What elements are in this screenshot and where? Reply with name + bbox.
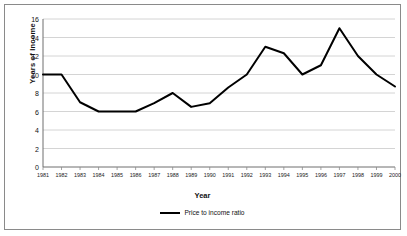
- x-tick-1991: 1991: [222, 172, 234, 178]
- y-tick-0: 0: [17, 164, 39, 171]
- legend-label-price-to-income-ratio: Price to income ratio: [184, 209, 244, 216]
- series-line-price-to-income-ratio: [43, 28, 395, 111]
- chart-legend: Price to income ratio: [5, 209, 400, 216]
- x-tick-1983: 1983: [74, 172, 86, 178]
- x-tick-1985: 1985: [111, 172, 123, 178]
- y-tick-2: 2: [17, 145, 39, 152]
- x-tick-1982: 1982: [56, 172, 68, 178]
- gridlines: [43, 19, 395, 167]
- y-tick-14: 14: [17, 34, 39, 41]
- x-tick-1989: 1989: [185, 172, 197, 178]
- x-tick-1999: 1999: [370, 172, 382, 178]
- x-tick-1990: 1990: [204, 172, 216, 178]
- x-tick-1992: 1992: [241, 172, 253, 178]
- x-tick-1984: 1984: [93, 172, 105, 178]
- x-tick-1995: 1995: [296, 172, 308, 178]
- x-tick-1988: 1988: [167, 172, 179, 178]
- legend-swatch-price-to-income-ratio: [160, 212, 180, 214]
- x-tick-2000: 2000: [389, 172, 401, 178]
- x-tick-1987: 1987: [148, 172, 160, 178]
- chart-frame: Years of Income Year 0246810121416 19811…: [4, 4, 401, 230]
- y-tick-4: 4: [17, 127, 39, 134]
- y-tick-12: 12: [17, 53, 39, 60]
- data-series-layer: [43, 28, 395, 111]
- x-tick-1993: 1993: [259, 172, 271, 178]
- x-tick-1997: 1997: [333, 172, 345, 178]
- y-tick-8: 8: [17, 90, 39, 97]
- x-tick-1994: 1994: [278, 172, 290, 178]
- x-tick-1981: 1981: [37, 172, 49, 178]
- x-tick-1986: 1986: [130, 172, 142, 178]
- y-tick-10: 10: [17, 71, 39, 78]
- x-tick-1998: 1998: [352, 172, 364, 178]
- y-tick-16: 16: [17, 16, 39, 23]
- y-tick-6: 6: [17, 108, 39, 115]
- chart-area: Years of Income Year 0246810121416 19811…: [5, 5, 400, 229]
- x-axis-title: Year: [5, 191, 400, 200]
- x-tick-1996: 1996: [315, 172, 327, 178]
